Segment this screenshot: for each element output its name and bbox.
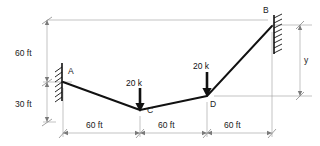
arrowhead-datum-top [45, 20, 49, 25]
support-b-fixed-wall [274, 14, 282, 54]
node-label-b: B [263, 5, 269, 15]
node-label-c: C [147, 105, 153, 115]
node-label-a: A [68, 66, 74, 76]
horizontal-dimension-label-3: 60 ft [224, 120, 241, 130]
horizontal-dimension-label-2: 60 ft [158, 120, 175, 130]
load-label-c: 20 k [126, 78, 143, 88]
support-a-fixed-wall [55, 63, 62, 102]
cable-structure-figure: 60 ft 30 ft A C D B 20 k 20 k 60 ft 60 f… [0, 0, 320, 146]
arrowhead-dim3-left [207, 131, 212, 135]
arrowhead-30ft-top [45, 82, 49, 87]
arrowhead-dim2-left [140, 131, 145, 135]
arrowhead-y-top [298, 25, 302, 30]
vertical-dimension-label-30ft: 30 ft [15, 99, 32, 109]
horizontal-dimension-label-1: 60 ft [86, 120, 103, 130]
vertical-dimension-label-60ft: 60 ft [15, 48, 32, 58]
cable-members [63, 26, 272, 110]
arrowhead-y-bottom [298, 91, 302, 96]
arrowhead-dim1-left [63, 131, 68, 135]
vertical-dimension-label-y: y [304, 55, 309, 65]
load-label-d: 20 k [193, 61, 210, 71]
node-label-d: D [210, 99, 216, 109]
